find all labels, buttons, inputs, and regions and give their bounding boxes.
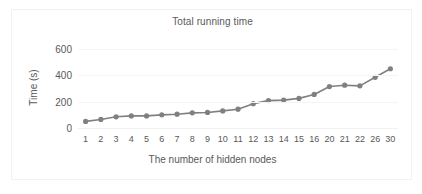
data-point-marker — [190, 110, 195, 115]
data-point-marker — [205, 110, 210, 115]
x-axis-tick-4: 4 — [129, 134, 134, 144]
x-axis-tick-11: 11 — [233, 134, 242, 144]
x-axis-tick-12: 12 — [248, 134, 258, 144]
data-point-marker — [129, 113, 134, 118]
data-point-marker — [357, 83, 362, 88]
y-axis-tick-600: 600 — [26, 44, 72, 55]
data-point-marker — [312, 92, 317, 97]
x-axis-line — [78, 128, 398, 129]
x-axis-tick-20: 20 — [324, 134, 334, 144]
data-point-marker — [98, 117, 103, 122]
x-axis-tick-13: 13 — [263, 134, 273, 144]
x-axis-tick-9: 9 — [205, 134, 210, 144]
gridline — [78, 49, 398, 50]
data-point-marker — [113, 114, 118, 119]
data-point-marker — [174, 112, 179, 117]
y-axis-tick-200: 200 — [26, 96, 72, 107]
gridline — [78, 75, 398, 76]
x-axis-tick-16: 16 — [309, 134, 319, 144]
data-point-marker — [327, 84, 332, 89]
chart-title: Total running time — [12, 16, 413, 27]
x-axis-tick-6: 6 — [159, 134, 164, 144]
y-axis-tick-400: 400 — [26, 70, 72, 81]
x-axis-tick-7: 7 — [175, 134, 180, 144]
x-axis-tick-labels: 123456789101112131415162021222630 — [78, 134, 398, 148]
x-axis-tick-10: 10 — [218, 134, 228, 144]
y-axis-tick-0: 0 — [26, 123, 72, 134]
data-series-line — [78, 49, 398, 128]
gridline — [78, 102, 398, 103]
x-axis-tick-5: 5 — [144, 134, 149, 144]
x-axis-tick-3: 3 — [114, 134, 119, 144]
x-axis-tick-8: 8 — [190, 134, 195, 144]
data-point-marker — [296, 96, 301, 101]
chart-container: Total running time Time (s) 0200400600 1… — [11, 9, 412, 180]
data-point-marker — [342, 83, 347, 88]
x-axis-tick-21: 21 — [340, 134, 350, 144]
data-point-marker — [83, 119, 88, 124]
data-point-marker — [235, 107, 240, 112]
x-axis-tick-1: 1 — [83, 134, 88, 144]
data-point-marker — [159, 112, 164, 117]
data-point-marker — [388, 66, 393, 71]
x-axis-tick-30: 30 — [385, 134, 395, 144]
x-axis-tick-15: 15 — [294, 134, 304, 144]
data-point-marker — [144, 113, 149, 118]
plot-area — [78, 49, 398, 128]
x-axis-tick-22: 22 — [355, 134, 365, 144]
x-axis-tick-14: 14 — [279, 134, 289, 144]
y-axis-tick-labels: 0200400600 — [26, 49, 72, 128]
x-axis-tick-26: 26 — [370, 134, 380, 144]
x-axis-title: The number of hidden nodes — [12, 154, 413, 165]
data-point-marker — [220, 108, 225, 113]
x-axis-tick-2: 2 — [98, 134, 103, 144]
